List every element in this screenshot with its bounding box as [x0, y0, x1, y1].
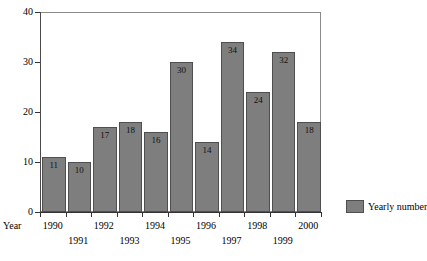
x-axis-tick — [66, 212, 67, 217]
x-axis-tick — [40, 212, 41, 217]
bar-value-label: 32 — [273, 56, 295, 65]
x-axis-label: 1993 — [119, 236, 139, 246]
x-axis-label: 1994 — [145, 221, 165, 231]
x-axis-tick — [270, 212, 271, 217]
x-axis-tick — [244, 212, 245, 217]
bar-value-label: 34 — [222, 46, 244, 55]
y-axis-tick — [35, 112, 40, 113]
bar: 32 — [272, 52, 296, 212]
x-axis-tick — [193, 212, 194, 217]
bar: 16 — [144, 132, 168, 212]
bar-value-label: 18 — [120, 126, 142, 135]
x-axis-tick — [219, 212, 220, 217]
legend: Yearly number — [346, 200, 427, 213]
bar-value-label: 11 — [43, 161, 65, 170]
x-axis-label: 1991 — [68, 236, 88, 246]
bar: 14 — [195, 142, 219, 212]
y-axis-tick — [35, 12, 40, 13]
bar-value-label: 10 — [69, 166, 91, 175]
x-axis-label: 1992 — [94, 221, 114, 231]
bar-value-label: 17 — [94, 131, 116, 140]
bar: 18 — [119, 122, 143, 212]
x-axis-tick — [295, 212, 296, 217]
bar: 24 — [246, 92, 270, 212]
x-axis-label: 1990 — [43, 221, 63, 231]
y-axis-tick — [35, 162, 40, 163]
x-axis-tick — [168, 212, 169, 217]
x-axis-tick — [117, 212, 118, 217]
bar-value-label: 30 — [171, 66, 193, 75]
y-axis-tick-label: 0 — [0, 207, 33, 217]
bar-value-label: 24 — [247, 96, 269, 105]
x-axis-title: Year — [3, 221, 21, 231]
bar-value-label: 14 — [196, 146, 218, 155]
y-axis-tick-label: 30 — [0, 57, 33, 67]
legend-label-yearly-number: Yearly number — [368, 201, 427, 212]
bar: 30 — [170, 62, 194, 212]
x-axis-tick — [91, 212, 92, 217]
legend-swatch-yearly-number — [346, 200, 364, 213]
x-axis-tick — [142, 212, 143, 217]
bar: 11 — [42, 157, 66, 212]
bar: 17 — [93, 127, 117, 212]
bar-value-label: 18 — [298, 126, 320, 135]
x-axis-line — [40, 212, 321, 213]
x-axis-label: 2000 — [298, 221, 318, 231]
x-axis-label: 1997 — [222, 236, 242, 246]
x-axis-tick — [321, 212, 322, 217]
y-axis-tick — [35, 62, 40, 63]
y-axis-tick-label: 20 — [0, 107, 33, 117]
x-axis-label: 1998 — [247, 221, 267, 231]
bar-value-label: 16 — [145, 136, 167, 145]
x-axis-label: 1995 — [171, 236, 191, 246]
y-axis-tick-label: 10 — [0, 157, 33, 167]
bars-area: 1110171816301434243218 — [41, 12, 320, 212]
y-axis-tick-label: 40 — [0, 7, 33, 17]
bar: 34 — [221, 42, 245, 212]
bar: 18 — [297, 122, 321, 212]
bar: 10 — [68, 162, 92, 212]
x-axis-label: 1999 — [273, 236, 293, 246]
x-axis-label: 1996 — [196, 221, 216, 231]
